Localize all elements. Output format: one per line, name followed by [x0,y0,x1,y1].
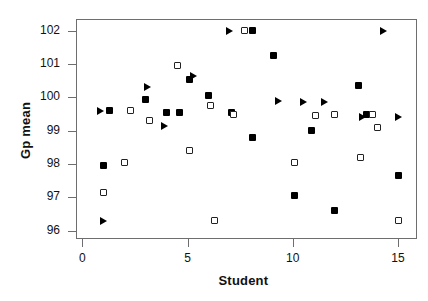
data-point-right-triangle [97,107,104,115]
y-tick-label: 97 [26,189,60,203]
data-point-filled-square [395,172,402,179]
data-point-filled-square [249,134,256,141]
y-tick-label: 99 [26,123,60,137]
data-point-open-square [395,217,402,224]
data-point-filled-square [100,162,107,169]
data-point-open-square [357,154,364,161]
data-point-open-square [369,111,376,118]
data-point-right-triangle [275,97,282,105]
x-tick-mark [293,239,294,247]
data-point-open-square [186,147,193,154]
data-point-open-square [121,159,128,166]
data-point-filled-square [270,52,277,59]
scatter-chart: Gp mean Student 96979899100101102 051015 [0,0,428,301]
data-point-open-square [211,217,218,224]
y-tick-mark [68,131,76,132]
data-point-open-square [241,27,248,34]
y-tick-mark [68,164,76,165]
y-tick-label: 102 [26,23,60,37]
data-point-right-triangle [100,217,107,225]
data-point-right-triangle [161,122,168,130]
data-point-filled-square [355,82,362,89]
y-tick-mark [68,231,76,232]
y-tick-mark [68,31,76,32]
y-tick-label: 101 [26,56,60,70]
x-tick-label: 10 [273,251,313,265]
y-tick-label: 100 [26,89,60,103]
x-tick-label: 5 [168,251,208,265]
data-point-open-square [100,189,107,196]
y-tick-label: 98 [26,156,60,170]
data-point-filled-square [249,27,256,34]
data-point-right-triangle [380,27,387,35]
data-point-filled-square [106,107,113,114]
x-tick-label: 0 [62,251,102,265]
data-point-filled-square [176,109,183,116]
data-point-open-square [374,124,381,131]
data-point-open-square [312,112,319,119]
data-point-right-triangle [395,113,402,121]
data-point-open-square [207,102,214,109]
data-point-filled-square [142,96,149,103]
x-tick-mark [398,239,399,247]
data-point-open-square [331,111,338,118]
x-tick-mark [82,239,83,247]
data-point-right-triangle [359,113,366,121]
data-point-open-square [230,111,237,118]
data-point-open-square [146,117,153,124]
data-point-filled-square [163,109,170,116]
plot-area [76,19,417,239]
x-axis-label: Student [219,273,269,288]
y-tick-mark [68,97,76,98]
y-tick-mark [68,197,76,198]
data-point-filled-square [291,192,298,199]
data-point-right-triangle [190,72,197,80]
data-point-open-square [174,62,181,69]
data-point-right-triangle [300,98,307,106]
x-tick-mark [188,239,189,247]
data-point-filled-square [331,207,338,214]
y-tick-label: 96 [26,223,60,237]
y-tick-mark [68,64,76,65]
data-point-open-square [127,107,134,114]
data-point-open-square [291,159,298,166]
data-point-right-triangle [321,98,328,106]
data-point-filled-square [308,127,315,134]
x-tick-label: 15 [378,251,418,265]
data-point-filled-square [205,92,212,99]
data-point-right-triangle [144,83,151,91]
data-point-right-triangle [226,27,233,35]
